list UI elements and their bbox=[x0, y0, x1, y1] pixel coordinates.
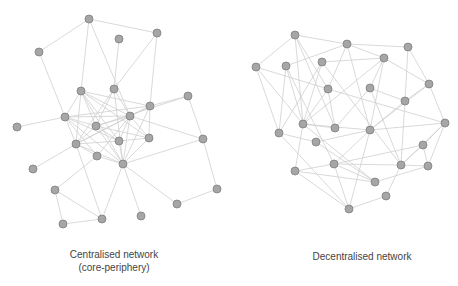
network-edge bbox=[65, 106, 150, 117]
network-node bbox=[330, 160, 338, 168]
network-node bbox=[345, 205, 353, 213]
network-edge bbox=[150, 33, 157, 106]
network-edge bbox=[334, 145, 423, 164]
network-node bbox=[119, 160, 127, 168]
network-node bbox=[291, 31, 299, 39]
network-node bbox=[85, 15, 93, 23]
network-edge bbox=[408, 47, 429, 84]
network-edge bbox=[286, 44, 347, 66]
network-node bbox=[29, 165, 37, 173]
network-edge bbox=[102, 164, 123, 219]
centralised-network bbox=[13, 15, 221, 228]
network-node bbox=[35, 48, 43, 56]
network-edge bbox=[81, 19, 89, 91]
decentralised-caption: Decentralised network bbox=[302, 250, 422, 263]
network-node bbox=[59, 220, 67, 228]
network-edge bbox=[177, 189, 217, 204]
network-node bbox=[93, 152, 101, 160]
network-node bbox=[252, 63, 260, 71]
network-edge bbox=[295, 35, 347, 44]
network-node bbox=[343, 40, 351, 48]
network-node bbox=[419, 141, 427, 149]
network-node bbox=[115, 35, 123, 43]
network-node bbox=[324, 85, 332, 93]
network-node bbox=[366, 126, 374, 134]
network-edge bbox=[203, 139, 217, 189]
network-edge bbox=[370, 101, 405, 130]
network-edge bbox=[349, 196, 386, 209]
network-edge bbox=[33, 144, 76, 169]
network-edge bbox=[349, 130, 370, 209]
network-edge bbox=[370, 88, 405, 101]
network-node bbox=[173, 200, 181, 208]
network-edge bbox=[316, 130, 370, 142]
centralised-caption-subtitle: (core-periphery) bbox=[54, 261, 174, 274]
network-edge bbox=[114, 39, 119, 89]
network-edge bbox=[130, 116, 203, 139]
network-edge bbox=[347, 44, 408, 47]
network-edge bbox=[123, 164, 177, 204]
centralised-caption: Centralised network (core-periphery) bbox=[54, 248, 174, 274]
network-edge bbox=[370, 123, 445, 130]
network-node bbox=[291, 167, 299, 175]
network-node bbox=[331, 124, 339, 132]
network-node bbox=[401, 97, 409, 105]
network-node bbox=[92, 122, 100, 130]
network-edge bbox=[279, 133, 316, 142]
network-node bbox=[72, 140, 80, 148]
network-edge bbox=[256, 67, 279, 133]
centralised-caption-title: Centralised network bbox=[54, 248, 174, 261]
network-node bbox=[397, 161, 405, 169]
network-edge bbox=[55, 190, 102, 219]
network-edge bbox=[295, 171, 349, 209]
network-node bbox=[61, 113, 69, 121]
network-node bbox=[153, 29, 161, 37]
network-edge bbox=[17, 117, 65, 127]
network-edge bbox=[328, 89, 335, 128]
network-node bbox=[366, 84, 374, 92]
network-edge bbox=[188, 96, 203, 139]
network-edge bbox=[334, 164, 349, 209]
network-edge bbox=[65, 117, 97, 156]
network-edge bbox=[405, 47, 408, 101]
network-node bbox=[299, 120, 307, 128]
network-edge bbox=[347, 44, 384, 58]
network-node bbox=[318, 58, 326, 66]
network-node bbox=[424, 162, 432, 170]
network-edge bbox=[334, 164, 401, 165]
network-node bbox=[137, 212, 145, 220]
network-edge bbox=[65, 116, 130, 117]
network-edge bbox=[322, 62, 401, 165]
network-edge bbox=[89, 19, 157, 33]
network-node bbox=[275, 129, 283, 137]
network-edge bbox=[96, 126, 149, 138]
network-node bbox=[146, 102, 154, 110]
network-edge bbox=[295, 124, 303, 171]
network-node bbox=[312, 138, 320, 146]
network-edge bbox=[316, 142, 375, 182]
network-edge bbox=[303, 62, 322, 124]
network-node bbox=[51, 186, 59, 194]
network-edge bbox=[256, 35, 295, 67]
network-edge bbox=[322, 58, 384, 62]
network-edge bbox=[370, 58, 384, 88]
network-edge bbox=[55, 156, 97, 190]
network-edge bbox=[39, 19, 89, 52]
network-node bbox=[145, 134, 153, 142]
network-node bbox=[380, 54, 388, 62]
network-node bbox=[371, 178, 379, 186]
network-node bbox=[382, 192, 390, 200]
network-edge bbox=[63, 219, 102, 224]
network-edge bbox=[429, 84, 445, 123]
network-node bbox=[282, 62, 290, 70]
network-node bbox=[13, 123, 21, 131]
decentralised-caption-title: Decentralised network bbox=[302, 250, 422, 263]
network-edge bbox=[256, 67, 303, 124]
network-node bbox=[110, 85, 118, 93]
network-edge bbox=[386, 165, 401, 196]
network-node bbox=[425, 80, 433, 88]
network-node bbox=[115, 137, 123, 145]
network-node bbox=[184, 92, 192, 100]
network-edge bbox=[89, 19, 130, 116]
network-edge bbox=[123, 164, 141, 216]
